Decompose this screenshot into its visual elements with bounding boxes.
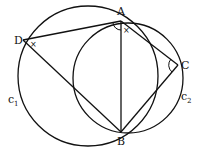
- point-label-b: B: [117, 135, 125, 148]
- segment-da: [23, 21, 121, 40]
- point-label-a: A: [116, 5, 126, 18]
- angle-mark-x-d: ×: [30, 40, 37, 49]
- point-label-c: C: [181, 59, 189, 72]
- circle-label-c2-sub: 2: [187, 97, 191, 105]
- angle-arc-c: [169, 59, 172, 72]
- point-label-d: D: [14, 34, 23, 47]
- segment-cb: [121, 65, 178, 132]
- geometry-diagram: A B C D × × c 1 c 2: [0, 0, 198, 154]
- angle-mark-x-a: ×: [123, 26, 130, 35]
- segment-db: [23, 40, 121, 132]
- circle-label-c1-sub: 1: [14, 100, 18, 108]
